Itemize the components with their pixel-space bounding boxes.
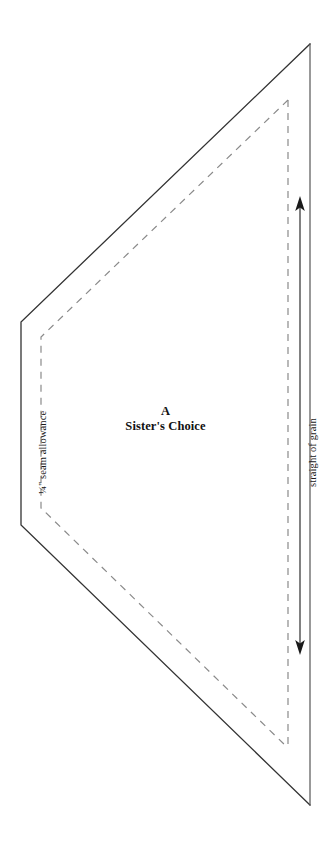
seam-line	[41, 100, 288, 748]
pattern-drawing	[0, 0, 331, 848]
pattern-template-canvas: A Sister's Choice ¼" seam allowance stra…	[0, 0, 331, 848]
cutting-line	[21, 44, 310, 805]
